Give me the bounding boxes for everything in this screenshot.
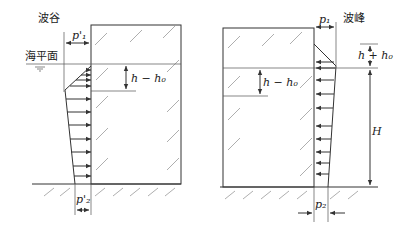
ground-hatching-left	[44, 188, 175, 196]
p2-label-left: p'₂	[76, 193, 90, 206]
depth-label-left: h − h₀	[131, 72, 166, 85]
p1-label-left: p'₁	[72, 29, 86, 42]
ground-hatching-right	[225, 191, 358, 199]
sea-level-label: 海平面	[25, 49, 58, 63]
height-label: H	[371, 125, 382, 138]
wall-hatching-left	[95, 26, 179, 170]
wave-pressure-diagram: h − h₀ p'₁ p'₂ 波谷 海平面	[0, 0, 401, 231]
p2-label-right: p₂	[315, 198, 326, 211]
pressure-profile-crest	[314, 44, 336, 187]
p1-label-right: p₁	[319, 13, 330, 26]
wall-body-right	[223, 28, 314, 187]
water-level-symbol	[35, 67, 45, 71]
wall-body-left	[91, 25, 181, 184]
wall-hatching-right	[228, 32, 312, 176]
depth-label-right: h − h₀	[263, 76, 298, 89]
crest-diagram: h − h₀ p₁ h + h₀ H p₂ 波峰	[220, 12, 393, 222]
trough-diagram: h − h₀ p'₁ p'₂ 波谷 海平面	[25, 12, 181, 215]
rise-label: h + h₀	[358, 49, 393, 62]
crest-title: 波峰	[343, 12, 365, 25]
trough-title: 波谷	[38, 12, 60, 25]
